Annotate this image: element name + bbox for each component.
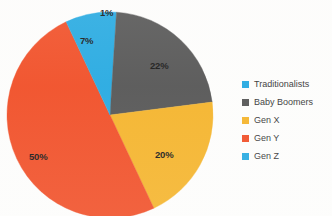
slice-label-gen-x: 20% (155, 150, 173, 160)
slice-label-baby-boomers: 22% (150, 61, 168, 71)
legend-item-label: Baby Boomers (254, 98, 313, 107)
slice-label-gen-y: 50% (29, 152, 47, 162)
legend-item-label: Gen X (254, 116, 280, 125)
pie-plot-area (0, 0, 232, 216)
pie-chart-figure: 1% 7% 22% 20% 50% TraditionalistsBaby Bo… (0, 0, 332, 216)
legend-swatch-icon (242, 135, 249, 142)
legend-swatch-icon (242, 153, 249, 160)
legend-swatch-icon (242, 81, 249, 88)
legend-swatch-icon (242, 117, 249, 124)
legend-item-label: Gen Z (254, 152, 279, 161)
legend-item-label: Gen Y (254, 134, 279, 143)
pie-svg (0, 0, 232, 216)
legend-item-baby-boomers[interactable]: Baby Boomers (242, 94, 332, 111)
legend-item-traditionalists[interactable]: Traditionalists (242, 76, 332, 93)
slice-label-gen-z: 7% (80, 36, 93, 46)
legend-swatch-icon (242, 99, 249, 106)
legend-item-gen-x[interactable]: Gen X (242, 112, 332, 129)
legend-item-gen-z[interactable]: Gen Z (242, 148, 332, 165)
legend-item-gen-y[interactable]: Gen Y (242, 130, 332, 147)
legend-item-label: Traditionalists (254, 80, 309, 89)
pie-slice-group (7, 12, 213, 216)
slice-label-traditionalists: 1% (100, 8, 113, 18)
chart-legend: TraditionalistsBaby BoomersGen XGen YGen… (242, 76, 332, 166)
